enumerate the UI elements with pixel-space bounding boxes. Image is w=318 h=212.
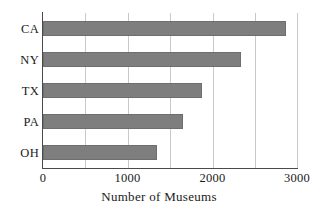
plot-area [43,13,298,168]
bar-ca [43,21,286,36]
bar-row [43,137,298,168]
bar-row [43,44,298,75]
bar-tx [43,83,203,98]
x-axis-title: Number of Museums [0,190,318,203]
bar-oh [43,145,158,160]
x-tick-label-2000: 2000 [200,172,226,185]
y-tick-label-pa: PA [0,116,39,129]
x-axis-line [42,168,298,169]
y-tick-label-ny: NY [0,54,39,67]
bar-ny [43,52,241,67]
x-tick-label-0: 0 [40,172,46,185]
y-tick-label-oh: OH [0,147,39,160]
bar-chart: CA NY TX PA OH 0 1000 2000 3000 Number o… [0,0,318,212]
y-tick-label-tx: TX [0,85,39,98]
y-tick-label-ca: CA [0,23,39,36]
bar-row [43,13,298,44]
y-axis-line [42,12,43,169]
x-tick-label-3000: 3000 [284,172,310,185]
bar-pa [43,114,184,129]
bar-row [43,106,298,137]
x-tick-label-1000: 1000 [115,172,141,185]
bar-row [43,75,298,106]
